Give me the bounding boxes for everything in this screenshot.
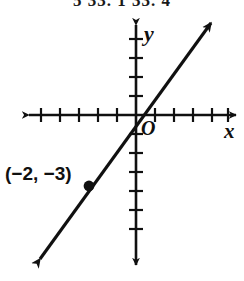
plotted-point-label: (−2, −3) [5, 163, 72, 184]
y-axis-label: y [141, 21, 154, 46]
y-axis [129, 25, 143, 265]
coordinate-plane-graph: y x O (−2, −3) [0, 0, 244, 281]
graph-screenshot: 5 33. 1 33. 4 [0, 0, 244, 281]
plotted-point-marker [84, 181, 95, 192]
plotted-line [40, 23, 211, 259]
x-axis-label: x [223, 119, 235, 143]
origin-label: O [141, 117, 155, 139]
x-axis [29, 108, 236, 122]
